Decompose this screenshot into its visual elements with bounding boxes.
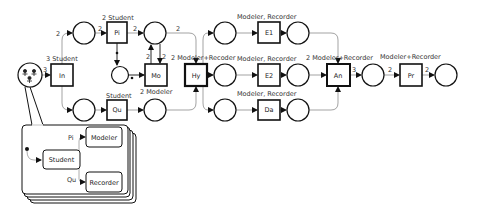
place-before-da bbox=[214, 99, 236, 121]
annotation-e2: Modeler, Recorder bbox=[237, 55, 297, 63]
place-after-an bbox=[362, 64, 384, 86]
label-e1: E1 bbox=[265, 29, 273, 37]
annotation-an: 2 Modeler+Recorder bbox=[306, 54, 373, 62]
label-da: Da bbox=[265, 106, 274, 114]
token-dot bbox=[116, 52, 119, 55]
annotation-pi: 2 Student bbox=[102, 14, 134, 22]
annotation-hy: 2 Modeler+Recoder bbox=[171, 54, 236, 62]
place-before-e1 bbox=[214, 22, 236, 44]
weight-label: 2 bbox=[56, 30, 60, 38]
actor-place bbox=[18, 63, 42, 87]
state-modeler-label: Modeler bbox=[91, 134, 118, 142]
weight-label: 2 bbox=[133, 25, 137, 33]
weight-label: 2 bbox=[176, 25, 180, 33]
annotation-da: Modeler, Recorder bbox=[237, 90, 297, 98]
label-in: In bbox=[59, 72, 65, 80]
petri-net-diagram: In Pi Mo Qu Hy E1 E2 Da An Pr 3 Student … bbox=[0, 0, 478, 218]
label-qu: Qu bbox=[112, 106, 121, 114]
annotation-qu: Student bbox=[106, 92, 132, 100]
role-model: Student Modeler Recorder Pi Qu bbox=[22, 125, 136, 203]
place-after-e1 bbox=[287, 22, 309, 44]
weight-label: 2 bbox=[388, 66, 392, 74]
place-after-e2 bbox=[287, 64, 309, 86]
state-recorder-label: Recorder bbox=[89, 179, 118, 187]
annotation-pr: Modeler+Recorder bbox=[380, 53, 441, 61]
place-middle bbox=[112, 67, 129, 84]
annotation-e1: Modeler, Recorder bbox=[237, 13, 297, 21]
label-pr: Pr bbox=[408, 72, 415, 80]
place-after-da bbox=[287, 99, 309, 121]
weight-label: 2 bbox=[146, 53, 150, 61]
label-mo: Mo bbox=[151, 72, 161, 80]
annotation-in: 3 Student bbox=[46, 55, 78, 63]
state-student-label: Student bbox=[49, 156, 75, 164]
place-after-in-upper bbox=[73, 22, 95, 44]
place-after-qu bbox=[144, 99, 166, 121]
place-after-pi bbox=[144, 22, 166, 44]
label-pi: Pi bbox=[114, 29, 120, 37]
label-an: An bbox=[334, 72, 343, 80]
annotations: 3 Student 2 Student 2 Modeler Student 2 … bbox=[46, 13, 441, 100]
label-e2: E2 bbox=[265, 72, 273, 80]
weight-label: 3 bbox=[43, 66, 47, 74]
annotation-mo: 2 Modeler bbox=[140, 88, 173, 96]
place-before-e2 bbox=[214, 64, 236, 86]
initial-state-dot bbox=[25, 147, 29, 151]
label-hy: Hy bbox=[192, 72, 201, 80]
place-final bbox=[435, 64, 457, 86]
role-transition-pi: Pi bbox=[68, 134, 74, 142]
weight-label: 2 bbox=[98, 25, 102, 33]
weight-label: 2 bbox=[425, 66, 429, 74]
token-dot bbox=[131, 77, 134, 80]
place-after-in-lower bbox=[73, 99, 95, 121]
weight-label: 2 bbox=[162, 53, 166, 61]
weight-label: 3 bbox=[352, 66, 356, 74]
role-transition-qu: Qu bbox=[67, 176, 76, 184]
callout bbox=[25, 87, 43, 125]
